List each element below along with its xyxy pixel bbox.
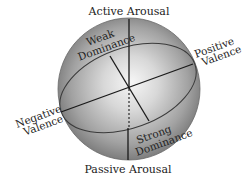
- pad-sphere-diagram: Active Arousal Passive Arousal Positive …: [0, 0, 244, 179]
- label-active-arousal: Active Arousal: [88, 5, 170, 18]
- label-passive-arousal: Passive Arousal: [84, 163, 172, 176]
